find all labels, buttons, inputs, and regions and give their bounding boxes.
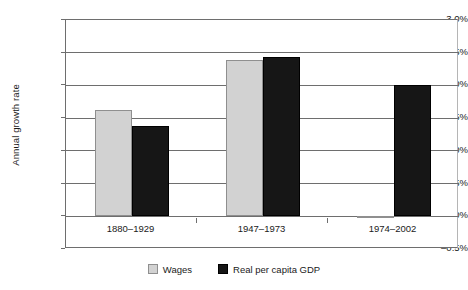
chart-legend: WagesReal per capita GDP: [0, 261, 468, 277]
x-axis-category-label: 1947–1973: [196, 223, 327, 234]
legend-gdp-swatch: [218, 264, 228, 274]
bar-chart: Annual growth rate 3.0%2.5%2.0%1.5%1.0%0…: [0, 0, 468, 290]
x-axis-category-separator: [196, 218, 197, 223]
bar-wages-1: [226, 60, 263, 216]
bar-gdp-0: [132, 126, 169, 216]
legend-label: Wages: [163, 264, 192, 275]
x-axis-category-separator: [327, 218, 328, 223]
plot-area: [65, 19, 458, 248]
bar-wages-0: [95, 110, 132, 217]
gridline: [66, 52, 459, 53]
legend-entry-gdp: Real per capita GDP: [218, 264, 320, 275]
y-axis-tick-mark: [61, 248, 65, 249]
bar-wages-2: [357, 216, 394, 218]
legend-wages-swatch: [148, 264, 158, 274]
y-axis-title: Annual growth rate: [7, 0, 25, 250]
x-axis-category-label: 1880–1929: [65, 223, 196, 234]
legend-label: Real per capita GDP: [233, 264, 320, 275]
x-axis-category-label: 1974–2002: [327, 223, 458, 234]
bar-gdp-2: [394, 85, 431, 216]
legend-entry-wages: Wages: [148, 264, 192, 275]
bar-gdp-1: [263, 57, 300, 217]
